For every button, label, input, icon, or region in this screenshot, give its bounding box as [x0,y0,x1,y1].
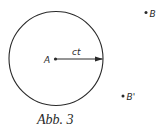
diagram: ct A B B' Abb. 3 [0,0,162,133]
point-a-label: A [43,55,50,65]
point-a-dot [54,57,57,60]
figure-caption: Abb. 3 [36,112,74,127]
point-b-prime-dot [122,95,125,98]
point-b-prime-label: B' [127,92,136,102]
point-b-dot [145,11,148,14]
point-b-label: B [150,9,156,19]
radius-label: ct [72,47,81,57]
